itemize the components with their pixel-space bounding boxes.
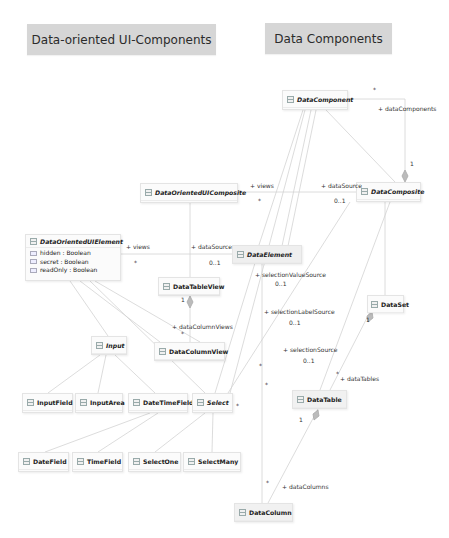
class-name: InputArea bbox=[90, 399, 125, 406]
class-input[interactable]: Input bbox=[91, 336, 127, 355]
class-data-component[interactable]: DataComponent bbox=[282, 90, 348, 110]
dataComponents-role: + dataComponents bbox=[378, 105, 436, 112]
class-data-column[interactable]: DataColumn bbox=[234, 503, 293, 522]
attribute-list: hidden : Boolean secret : Boolean readOn… bbox=[26, 248, 120, 278]
class-input-field[interactable]: InputField bbox=[22, 393, 73, 413]
tableview-one: 1 bbox=[181, 296, 185, 303]
class-date-field[interactable]: DateField bbox=[18, 452, 69, 472]
dataColumnViews-role: + dataColumnViews bbox=[172, 323, 233, 330]
class-icon bbox=[239, 509, 246, 516]
selectionSource-mult: 0..1 bbox=[303, 357, 314, 364]
composite-views-mult: * bbox=[258, 197, 261, 204]
composite-views-role: + views bbox=[250, 182, 274, 189]
class-icon bbox=[145, 189, 152, 196]
class-time-field[interactable]: TimeField bbox=[72, 452, 123, 472]
class-data-table-view[interactable]: DataTableView bbox=[158, 277, 220, 296]
class-icon bbox=[30, 238, 37, 245]
class-name: DataTable bbox=[307, 396, 342, 403]
element-dataSource-role: + dataSource bbox=[191, 243, 232, 250]
composite-dataSource-role: + dataSource bbox=[321, 182, 362, 189]
dataset-one: 1 bbox=[366, 316, 370, 323]
class-icon bbox=[159, 348, 166, 355]
dataTables-role: + dataTables bbox=[340, 375, 379, 382]
dataComponents-multiplicity: * bbox=[373, 86, 376, 93]
class-name: DateField bbox=[33, 458, 67, 465]
class-name: DataElement bbox=[247, 251, 292, 258]
class-select-one[interactable]: SelectOne bbox=[128, 452, 181, 472]
class-icon bbox=[163, 283, 170, 290]
element-dataSource-mult: 0..1 bbox=[209, 259, 220, 266]
selectionLabelSource-role: + selectionLabelSource bbox=[264, 308, 335, 315]
element-views-role: + views bbox=[126, 243, 150, 250]
class-icon bbox=[77, 458, 84, 465]
class-name: DateTimeField bbox=[143, 399, 194, 406]
class-name: SelectMany bbox=[198, 458, 238, 465]
class-icon bbox=[96, 342, 103, 349]
class-data-oriented-ui-element[interactable]: DataOrientedUIElement hidden : Boolean s… bbox=[25, 234, 121, 281]
class-name: DataComposite bbox=[371, 188, 424, 195]
attribute-secret: secret : Boolean bbox=[30, 258, 116, 267]
class-data-element[interactable]: DataElement bbox=[232, 245, 302, 264]
class-name: DataOrientedUIElement bbox=[40, 238, 123, 245]
element-views-mult: * bbox=[134, 259, 137, 266]
class-icon bbox=[197, 399, 204, 406]
dataColumnViews-mult: * bbox=[181, 330, 184, 337]
class-icon bbox=[133, 399, 140, 406]
class-icon bbox=[133, 458, 140, 465]
attribute-icon bbox=[30, 268, 37, 273]
class-select-many[interactable]: SelectMany bbox=[183, 452, 241, 472]
class-select[interactable]: Select bbox=[192, 393, 233, 413]
class-name: TimeField bbox=[87, 458, 121, 465]
class-name: Input bbox=[106, 342, 125, 349]
dataComponents-one: 1 bbox=[410, 160, 414, 167]
class-name: DataColumn bbox=[249, 509, 292, 516]
class-icon bbox=[27, 399, 34, 406]
class-icon bbox=[23, 458, 30, 465]
dataColumns-mult: * bbox=[266, 479, 269, 486]
attribute-icon bbox=[30, 259, 37, 264]
class-icon bbox=[237, 251, 244, 258]
class-name: DataSet bbox=[381, 301, 409, 308]
select-assoc-mult-1: * bbox=[259, 362, 262, 369]
attribute-hidden: hidden : Boolean bbox=[30, 249, 116, 258]
class-data-column-view[interactable]: DataColumnView bbox=[154, 342, 225, 361]
class-name: SelectOne bbox=[143, 458, 178, 465]
attribute-icon bbox=[30, 251, 37, 256]
class-icon bbox=[287, 96, 294, 103]
class-data-set[interactable]: DataSet bbox=[367, 295, 404, 313]
dataColumns-role: + dataColumns bbox=[282, 483, 329, 490]
selectionSource-role: + selectionSource bbox=[283, 346, 338, 353]
class-name: Select bbox=[207, 399, 229, 406]
selectionLabelSource-mult: 0..1 bbox=[289, 319, 300, 326]
class-icon bbox=[371, 301, 378, 308]
class-date-time-field[interactable]: DateTimeField bbox=[128, 393, 188, 413]
class-name: DataOrientedUIComposite bbox=[155, 189, 246, 196]
composite-dataSource-mult: 0..1 bbox=[334, 197, 345, 204]
attribute-readonly: readOnly : Boolean bbox=[30, 266, 116, 275]
class-data-composite[interactable]: DataComposite bbox=[356, 182, 421, 202]
select-assoc-mult-3: * bbox=[236, 402, 239, 409]
class-name: DataTableView bbox=[173, 283, 225, 290]
class-input-area[interactable]: InputArea bbox=[75, 393, 123, 413]
class-icon bbox=[80, 399, 87, 406]
selectionValueSource-role: + selectionValueSource bbox=[255, 271, 326, 278]
select-assoc-mult-2: * bbox=[265, 381, 268, 388]
class-icon bbox=[188, 458, 195, 465]
selectionValueSource-mult: 0..1 bbox=[275, 280, 286, 287]
class-name: InputField bbox=[37, 399, 73, 406]
class-data-oriented-ui-composite[interactable]: DataOrientedUIComposite bbox=[140, 183, 238, 203]
class-icon bbox=[297, 396, 304, 403]
class-data-table[interactable]: DataTable bbox=[292, 390, 347, 409]
datatable-one: 1 bbox=[299, 416, 303, 423]
class-name: DataComponent bbox=[297, 96, 353, 103]
class-name: DataColumnView bbox=[169, 348, 228, 355]
dataTables-mult: * bbox=[336, 370, 339, 377]
